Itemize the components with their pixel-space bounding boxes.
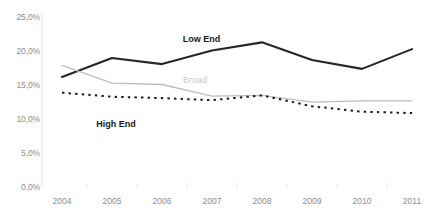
x-axis-tick-label: 2011: [392, 196, 432, 206]
series-label-low-end: Low End: [183, 34, 221, 44]
x-axis-tick-label: 2007: [192, 196, 232, 206]
x-axis-tick-label: 2009: [292, 196, 332, 206]
series-label-high-end: High End: [96, 119, 136, 129]
x-axis-tick-label: 2004: [42, 196, 82, 206]
x-axis-tick-label: 2008: [242, 196, 282, 206]
line-chart: 0,0%5,0%10,0%15,0%20,0%25,0% 20042005200…: [0, 0, 438, 221]
x-axis-tick-label: 2010: [342, 196, 382, 206]
x-axis-tick-label: 2005: [92, 196, 132, 206]
x-axis-tick-label: 2006: [142, 196, 182, 206]
series-label-broad: Broad: [183, 75, 207, 85]
x-axis: 20042005200620072008200920102011: [0, 0, 438, 221]
